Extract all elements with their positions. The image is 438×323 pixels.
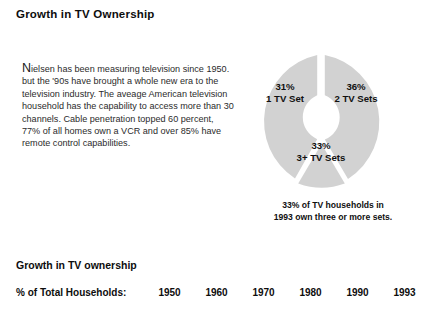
table-heading: Growth in TV ownership (16, 259, 137, 271)
table-year-1980: 1980 (287, 287, 334, 298)
document-page: Growth in TV Ownership Nielsen has been … (0, 0, 438, 323)
body-paragraph-text: ielsen has been measuring television sin… (22, 64, 234, 148)
body-paragraph: Nielsen has been measuring television si… (22, 62, 234, 150)
pie-caption-line-2: 1993 own three or more sets. (238, 212, 428, 224)
table-year-1950: 1950 (146, 287, 193, 298)
page-title: Growth in TV Ownership (16, 8, 155, 20)
drop-cap: N (22, 61, 31, 75)
table-year-1970: 1970 (240, 287, 287, 298)
table-year-header-cells: 1950 1960 1970 1980 1990 1993 (146, 287, 428, 298)
table-row-label: % of Total Households: (16, 287, 126, 298)
pie-slice-1-tv-set (264, 55, 317, 178)
table-year-1960: 1960 (193, 287, 240, 298)
table-year-1990: 1990 (334, 287, 381, 298)
pie-chart: 31% 1 TV Set 36% 2 TV Sets 33% 3+ TV Set… (250, 52, 392, 194)
table-year-1993: 1993 (381, 287, 428, 298)
table-row: % of Total Households: 1950 1960 1970 19… (16, 287, 428, 303)
pie-caption-line-1: 33% of TV households in (238, 200, 428, 212)
pie-slice-2-tv-sets (325, 55, 380, 179)
pie-caption: 33% of TV households in 1993 own three o… (238, 200, 428, 223)
